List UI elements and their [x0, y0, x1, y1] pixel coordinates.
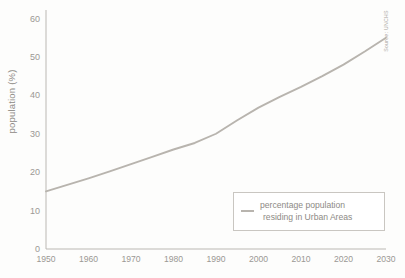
- chart-legend: percentage population residing in Urban …: [233, 192, 385, 231]
- legend-label-line-1: percentage population: [260, 200, 352, 212]
- legend-color-swatch: [241, 210, 254, 212]
- chart-figure: population (%) Source: UNCHS 01020304050…: [0, 0, 405, 278]
- plot-area: [0, 0, 405, 278]
- series-line-urban-population: [46, 38, 386, 192]
- legend-label: percentage population residing in Urban …: [260, 200, 352, 223]
- legend-label-line-2: residing in Urban Areas: [260, 212, 352, 224]
